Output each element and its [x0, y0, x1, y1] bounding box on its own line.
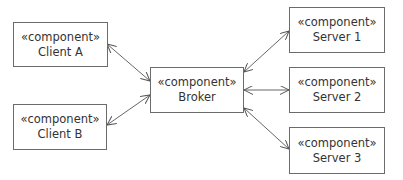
component-server-2[interactable]: «component» Server 2 [289, 67, 385, 113]
stereotype-label: «component» [21, 30, 100, 45]
stereotype-label: «component» [157, 75, 236, 90]
component-server-3[interactable]: «component» Server 3 [289, 127, 385, 174]
component-client-a[interactable]: «component» Client A [13, 22, 108, 67]
component-name: Server 2 [313, 90, 362, 105]
component-name: Server 1 [313, 30, 362, 45]
component-name: Client B [38, 127, 83, 142]
connector-broker-server-1 [244, 31, 289, 72]
component-name: Client A [38, 45, 83, 60]
connector-client-a-broker [107, 44, 150, 81]
stereotype-label: «component» [297, 15, 376, 30]
component-client-b[interactable]: «component» Client B [13, 104, 107, 150]
connector-broker-server-3 [244, 108, 289, 149]
component-name: Server 3 [313, 151, 362, 166]
stereotype-label: «component» [297, 75, 376, 90]
component-name: Broker [178, 90, 215, 105]
component-server-1[interactable]: «component» Server 1 [289, 7, 385, 53]
component-broker[interactable]: «component» Broker [150, 67, 244, 113]
stereotype-label: «component» [20, 112, 99, 127]
stereotype-label: «component» [297, 136, 376, 151]
connector-client-b-broker [107, 95, 150, 125]
